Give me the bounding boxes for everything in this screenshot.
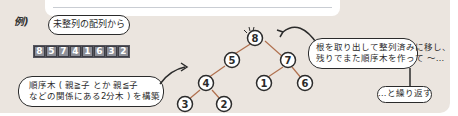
tree-node: 5 <box>225 53 240 68</box>
svg-text:4: 4 <box>203 78 210 89</box>
svg-text:1: 1 <box>261 78 268 89</box>
speech-bubble-repeat: …と繰り返す <box>377 86 432 103</box>
tree-node: 3 <box>178 97 193 112</box>
bubble-text: …と繰り返す <box>378 88 432 98</box>
svg-text:6: 6 <box>302 78 309 89</box>
tree-node: 1 <box>257 76 272 91</box>
speech-bubble-extract: 根を取り出して整列済みに移し、 残りでまた順序木を作って 〜… <box>308 38 418 69</box>
arrow-head-icon <box>277 30 283 37</box>
svg-text:7: 7 <box>285 55 292 66</box>
bubble-text-line1: 根を取り出して整列済みに移し、 <box>316 42 417 53</box>
tree-node: 8 <box>248 31 263 46</box>
bubble-text-line2: 残りでまた順序木を作って 〜… <box>316 53 417 64</box>
tree-node: 6 <box>298 76 313 91</box>
tree-node: 4 <box>199 76 214 91</box>
svg-text:5: 5 <box>229 55 236 66</box>
svg-text:8: 8 <box>252 33 259 44</box>
tree-node: 7 <box>281 53 296 68</box>
arrow-to-tree <box>160 67 185 84</box>
svg-text:3: 3 <box>182 99 189 110</box>
tree-node: 2 <box>217 97 232 112</box>
svg-text:2: 2 <box>221 99 228 110</box>
